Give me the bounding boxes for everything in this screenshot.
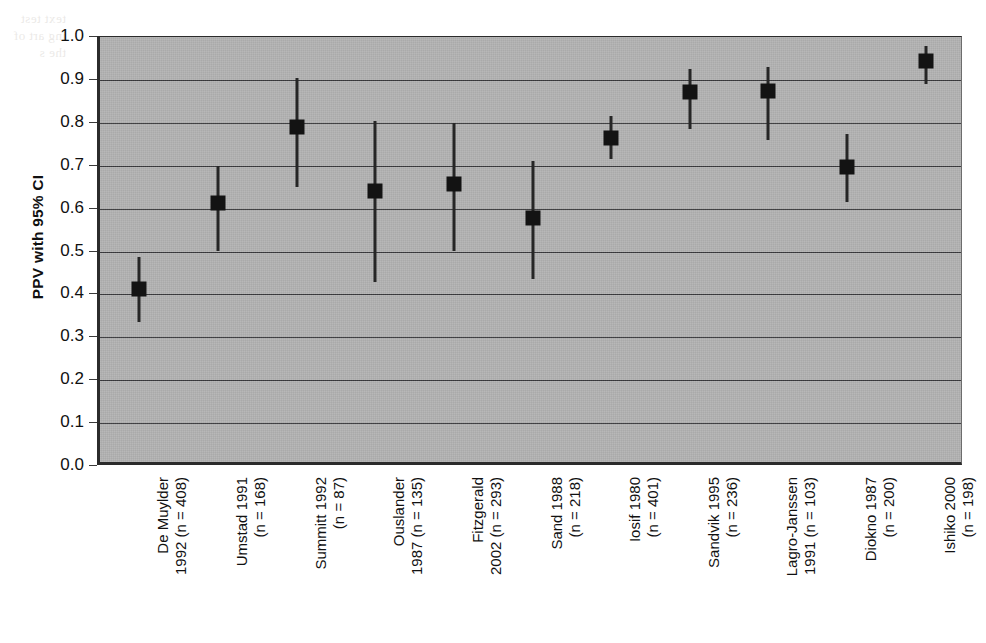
x-tick-label-line2: (n = 236) bbox=[723, 477, 741, 637]
x-tick-label-line2: (n = 218) bbox=[566, 477, 584, 637]
x-tick-label-line2: (n = 168) bbox=[251, 477, 269, 637]
data-point-marker bbox=[604, 130, 619, 145]
x-tick-label: Diokno 1987(n = 200) bbox=[862, 477, 898, 637]
x-tick-label: Fitzgerald2002 (n = 293) bbox=[469, 477, 505, 637]
x-tick-label-line1: Lagro-Janssen bbox=[783, 477, 801, 637]
y-tick-label: 0.7 bbox=[60, 155, 84, 175]
data-point-marker bbox=[446, 176, 461, 191]
plot-area bbox=[97, 36, 962, 465]
x-tick-label-line2: (n = 198) bbox=[959, 477, 977, 637]
data-point-marker bbox=[525, 211, 540, 226]
x-tick-label: Sandvik 1995(n = 236) bbox=[705, 477, 741, 637]
y-tick-label: 0.8 bbox=[60, 112, 84, 132]
x-tick-label: Lagro-Janssen1991 (n = 103) bbox=[783, 477, 819, 637]
y-tick-label: 0.6 bbox=[60, 198, 84, 218]
y-tick-label: 1.0 bbox=[60, 26, 84, 46]
x-tick-label-line1: Diokno 1987 bbox=[862, 477, 880, 637]
x-tick-label-line1: De Muylder bbox=[154, 477, 172, 637]
x-tick-label: Umstad 1991(n = 168) bbox=[233, 477, 269, 637]
data-point-marker bbox=[289, 120, 304, 135]
x-tick-label-line1: Sand 1988 bbox=[548, 477, 566, 637]
x-axis-tick-labels: De Muylder1992 (n = 408)Umstad 1991(n = … bbox=[0, 465, 986, 643]
y-tick-label: 0.9 bbox=[60, 69, 84, 89]
data-series bbox=[100, 37, 961, 462]
x-tick-label-line2: 1987 (n = 135) bbox=[408, 477, 426, 637]
x-tick-label: Sand 1988(n = 218) bbox=[548, 477, 584, 637]
x-tick-label-line2: 1992 (n = 408) bbox=[172, 477, 190, 637]
y-tick-label: 0.3 bbox=[60, 326, 84, 346]
data-point-marker bbox=[132, 282, 147, 297]
y-tick-label: 0.2 bbox=[60, 369, 84, 389]
y-tick-mark bbox=[89, 36, 97, 37]
x-tick-label-line1: Ishiko 2000 bbox=[941, 477, 959, 637]
x-tick-label-line1: Ouslander bbox=[390, 477, 408, 637]
y-tick-mark bbox=[89, 379, 97, 380]
x-tick-label: De Muylder1992 (n = 408) bbox=[154, 477, 190, 637]
y-tick-label: 0.5 bbox=[60, 241, 84, 261]
y-tick-mark bbox=[89, 251, 97, 252]
error-bar bbox=[374, 121, 377, 282]
x-tick-label-line2: (n = 200) bbox=[880, 477, 898, 637]
x-tick-label: Summitt 1992(n = 87) bbox=[312, 477, 348, 637]
y-tick-label: 0.1 bbox=[60, 412, 84, 432]
data-point-marker bbox=[918, 53, 933, 68]
x-tick-label-line2: 1991 (n = 103) bbox=[801, 477, 819, 637]
x-tick-label-line1: Fitzgerald bbox=[469, 477, 487, 637]
data-point-marker bbox=[210, 196, 225, 211]
y-tick-label: 0.4 bbox=[60, 283, 84, 303]
y-tick-mark bbox=[89, 208, 97, 209]
x-tick-label: Ishiko 2000(n = 198) bbox=[941, 477, 977, 637]
data-point-marker bbox=[682, 84, 697, 99]
x-tick-label-line1: Sandvik 1995 bbox=[705, 477, 723, 637]
y-tick-mark bbox=[89, 122, 97, 123]
x-tick-label-line1: Umstad 1991 bbox=[233, 477, 251, 637]
y-tick-mark bbox=[89, 165, 97, 166]
y-tick-mark bbox=[89, 79, 97, 80]
data-point-marker bbox=[840, 159, 855, 174]
x-tick-label: Iosif 1980(n = 401) bbox=[626, 477, 662, 637]
forest-plot-figure: text test ing art of the s PPV with 95% … bbox=[0, 0, 986, 643]
x-tick-label-line2: 2002 (n = 293) bbox=[487, 477, 505, 637]
error-bar bbox=[767, 67, 770, 140]
x-tick-label-line2: (n = 87) bbox=[330, 477, 348, 637]
y-tick-mark bbox=[89, 422, 97, 423]
x-tick-label-line1: Iosif 1980 bbox=[626, 477, 644, 637]
x-tick-label-line2: (n = 401) bbox=[644, 477, 662, 637]
y-tick-mark bbox=[89, 293, 97, 294]
x-tick-label-line1: Summitt 1992 bbox=[312, 477, 330, 637]
y-tick-mark bbox=[89, 336, 97, 337]
x-tick-label: Ouslander1987 (n = 135) bbox=[390, 477, 426, 637]
data-point-marker bbox=[761, 84, 776, 99]
data-point-marker bbox=[368, 184, 383, 199]
